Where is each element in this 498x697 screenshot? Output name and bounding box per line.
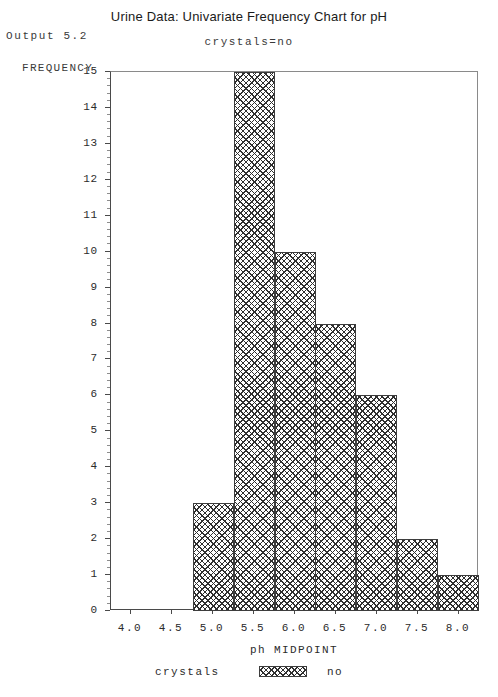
legend-title: crystals (155, 666, 220, 678)
bar (397, 539, 438, 611)
bar (234, 72, 275, 611)
bar (315, 324, 356, 611)
legend: crystals no (0, 663, 498, 681)
frequency-chart: FREQUENCY 0123456789101112131415 4.04.55… (0, 0, 498, 697)
crosshatch-swatch-icon (259, 666, 307, 677)
y-tick-label: 6 (58, 388, 98, 400)
y-tick-label: 11 (58, 209, 98, 221)
y-tick-label: 8 (58, 317, 98, 329)
y-tick-label: 13 (58, 137, 98, 149)
y-tick-label: 4 (58, 460, 98, 472)
bar (275, 252, 316, 611)
x-tick-mark (171, 610, 172, 614)
y-tick-label: 15 (58, 65, 98, 77)
x-axis-title: ph MIDPOINT (110, 644, 478, 656)
y-tick-label: 1 (58, 568, 98, 580)
x-tick-label: 8.0 (428, 622, 488, 634)
bar (438, 575, 479, 611)
y-tick-label: 9 (58, 281, 98, 293)
y-tick-label: 2 (58, 532, 98, 544)
bar (356, 395, 397, 611)
y-tick-label: 5 (58, 424, 98, 436)
y-tick-label: 3 (58, 496, 98, 508)
y-tick-label: 7 (58, 352, 98, 364)
bar (193, 503, 234, 611)
y-tick-label: 12 (58, 173, 98, 185)
y-tick-label: 0 (58, 604, 98, 616)
y-tick-label: 14 (58, 101, 98, 113)
plot-frame (110, 71, 478, 610)
legend-value: no (327, 666, 343, 678)
x-tick-mark (130, 610, 131, 614)
y-tick-label: 10 (58, 245, 98, 257)
y-tick-mark (105, 610, 110, 611)
